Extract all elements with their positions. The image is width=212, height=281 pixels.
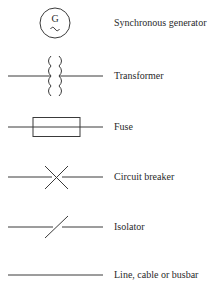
isolator-icon [8,216,103,238]
transformer-icon [8,56,103,96]
electrical-symbols-legend: G [0,0,212,281]
circuit-breaker-icon [8,166,103,189]
synchronous-generator-icon: G [40,8,70,38]
transformer-label: Transformer [114,70,164,82]
circuit-breaker-label: Circuit breaker [114,171,174,183]
generator-letter: G [51,13,58,24]
ac-wave-icon [51,27,60,31]
line-cable-busbar-label: Line, cable or busbar [114,269,198,281]
isolator-label: Isolator [114,221,145,233]
fuse-icon [8,118,103,137]
synchronous-generator-label: Synchronous generator [114,17,206,29]
fuse-label: Fuse [114,121,133,133]
